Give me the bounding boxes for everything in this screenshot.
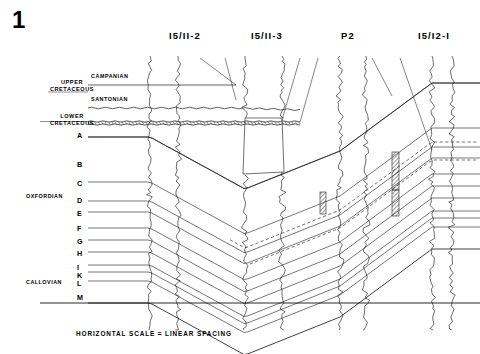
- unconformity-hachure: [231, 122, 232, 125]
- santonian-base-unconformity: [88, 107, 300, 110]
- marker-label-F: F: [77, 224, 82, 233]
- epoch-label-2: CALLOVIAN: [26, 279, 62, 285]
- figure-panel: 1 HORIZONTAL SCALE = LINEAR SPACING I5/I…: [0, 0, 480, 354]
- well-name-3: P2: [341, 30, 355, 41]
- correlation-line-K: [88, 218, 480, 324]
- marker-label-M: M: [77, 293, 83, 302]
- tie-line-6: [400, 58, 432, 150]
- correlation-line-G: [88, 186, 480, 292]
- marker-label-B: B: [77, 160, 83, 169]
- tie-line-4: [300, 58, 318, 122]
- marker-label-E: E: [77, 209, 82, 218]
- well-name-4: I5/I2-I: [418, 30, 450, 41]
- stage-label-1: CAMPANIAN: [91, 73, 129, 79]
- correlation-line-L: [88, 227, 480, 333]
- shaded-interval-2: [392, 190, 399, 216]
- well-name-2: I5/II-3: [251, 30, 283, 41]
- correlation-line-F: [88, 174, 480, 280]
- correlation-line-I: [88, 211, 480, 317]
- tie-line-3: [282, 58, 300, 120]
- marker-label-L: L: [77, 279, 82, 288]
- marker-label-A: A: [77, 131, 83, 140]
- tie-line-2: [225, 58, 236, 100]
- well-log-trace-I5-I2-I-b: [448, 56, 455, 330]
- stage-label-2: SANTONIAN: [91, 96, 128, 102]
- figure-caption: HORIZONTAL SCALE = LINEAR SPACING: [76, 330, 232, 337]
- marker-label-C: C: [77, 179, 83, 188]
- well-casing-rail-I5-II-3-a: [243, 118, 245, 174]
- well-name-1: I5/II-2: [169, 30, 201, 41]
- unconformity-lines-group: [40, 58, 432, 150]
- shaded-interval-1: [392, 152, 399, 190]
- marker-label-G: G: [77, 237, 83, 246]
- well-log-trace-P2-a: [336, 56, 344, 330]
- epoch-label-1: OXFORDIAN: [26, 193, 63, 199]
- shaded-intervals-group: [320, 152, 399, 216]
- correlation-line-D: [88, 147, 480, 253]
- stratigraphy-label-1: UPPER CRETACEOUS: [50, 79, 94, 93]
- unconformity-hachure: [255, 122, 256, 125]
- marker-label-H: H: [77, 249, 83, 258]
- stratigraphy-label-2: LOWER CRETACEOUS: [50, 113, 94, 127]
- correlation-diagram: [0, 0, 480, 354]
- figure-number: 1: [12, 6, 25, 34]
- unconformity-hachure: [207, 122, 208, 125]
- unconformity-hachure: [159, 122, 160, 125]
- marker-label-D: D: [77, 196, 83, 205]
- well-log-trace-I5-II-2-a: [147, 56, 153, 330]
- well-log-trace-I5-I2-I-a: [429, 56, 436, 330]
- well-log-trace-I5-II-3-a-top: [242, 56, 248, 118]
- shaded-interval-3: [320, 192, 326, 214]
- well-log-trace-I5-II-3-b-top: [280, 56, 285, 118]
- tie-line-5: [372, 58, 392, 96]
- tie-line-1: [200, 58, 236, 85]
- correlation-line-C: [88, 128, 480, 234]
- well-casing-rail-I5-II-3-b: [282, 118, 284, 172]
- unconformity-hachure: [183, 122, 184, 125]
- well-base-cap-I5-II-3: [243, 172, 284, 174]
